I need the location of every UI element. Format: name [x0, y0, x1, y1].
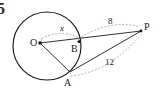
point-label-A: A	[64, 78, 71, 88]
point-label-P: P	[144, 22, 150, 32]
geometry-figure: 5 O B A P x 8 12	[0, 0, 160, 95]
measure-label-x: x	[60, 24, 64, 33]
point-label-B: B	[71, 44, 78, 54]
point-O-dot	[38, 41, 41, 44]
figure-number: 5	[0, 0, 5, 18]
geometry-canvas	[0, 0, 160, 95]
measure-arc-12	[71, 34, 142, 76]
segment-OA	[40, 43, 70, 72]
point-label-O: O	[30, 38, 37, 48]
measure-label-12: 12	[105, 58, 114, 67]
measure-arc-x	[42, 33, 79, 38]
point-P-dot	[140, 30, 143, 33]
measure-label-8: 8	[108, 17, 113, 26]
segment-OP	[40, 31, 141, 43]
measure-arc-8	[81, 25, 140, 37]
